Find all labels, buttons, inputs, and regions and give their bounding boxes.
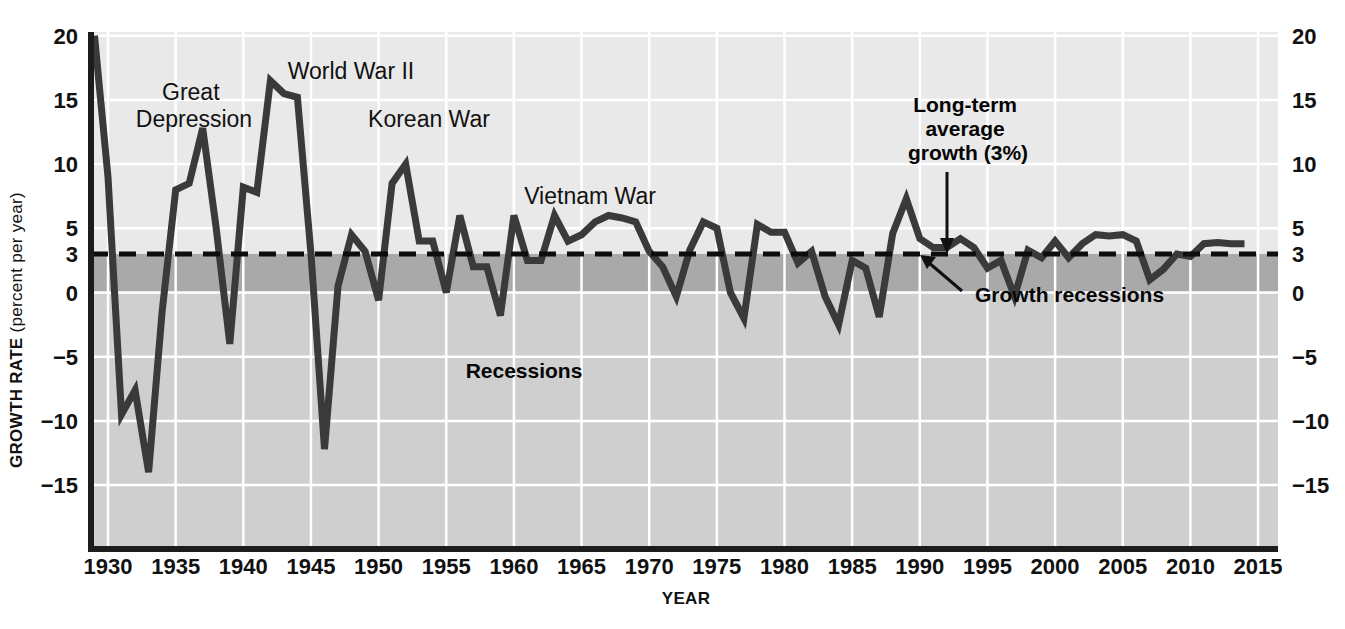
x-tick-label: 2010 — [1166, 554, 1215, 579]
y-tick-label: 10 — [1292, 152, 1316, 177]
x-tick-label: 1945 — [286, 554, 335, 579]
y-tick-label: −5 — [1292, 345, 1317, 370]
y-tick-label: 5 — [1292, 216, 1304, 241]
growth-rate-line-chart: 201510530−5−10−15 201510530−5−10−15 1930… — [0, 0, 1345, 629]
x-tick-label: 1940 — [219, 554, 268, 579]
annotation-growth-recessions: Growth recessions — [975, 283, 1164, 306]
x-tick-label: 1960 — [489, 554, 538, 579]
chart-figure: 201510530−5−10−15 201510530−5−10−15 1930… — [0, 0, 1345, 629]
annotation-long-term-average: Long-term average growth (3%) — [908, 93, 1028, 164]
y-tick-label: −10 — [1292, 409, 1329, 434]
x-tick-label: 1985 — [828, 554, 877, 579]
y-tick-label: 15 — [54, 88, 78, 113]
y-tick-label: 0 — [1292, 281, 1304, 306]
x-tick-label: 1930 — [84, 554, 133, 579]
y-tick-label: −15 — [1292, 473, 1329, 498]
x-tick-label: 1965 — [557, 554, 606, 579]
y-tick-label: 20 — [1292, 24, 1316, 49]
y-tick-label: −15 — [41, 473, 78, 498]
x-tick-label: 2005 — [1098, 554, 1147, 579]
x-tick-label: 1970 — [625, 554, 674, 579]
annotation-world-war-2: World War II — [288, 58, 415, 84]
y-axis-title: GROWTH RATE (percent per year) — [7, 192, 26, 468]
x-tick-label: 1955 — [422, 554, 471, 579]
annotation-korean-war: Korean War — [368, 106, 490, 132]
x-tick-label: 1975 — [692, 554, 741, 579]
y-tick-label: 3 — [66, 242, 78, 267]
x-tick-label: 1980 — [760, 554, 809, 579]
y-tick-label: 5 — [66, 216, 78, 241]
x-axis-title: YEAR — [662, 589, 710, 608]
y-tick-label: 0 — [66, 281, 78, 306]
x-tick-label: 1950 — [354, 554, 403, 579]
x-tick-label: 1995 — [963, 554, 1012, 579]
x-tick-label: 2015 — [1234, 554, 1283, 579]
y-tick-label: −10 — [41, 409, 78, 434]
x-tick-label: 1935 — [151, 554, 200, 579]
y-tick-label: 3 — [1292, 242, 1304, 267]
y-tick-label: 20 — [54, 24, 78, 49]
x-tick-label: 2000 — [1031, 554, 1080, 579]
y-tick-label: 15 — [1292, 88, 1316, 113]
annotation-vietnam-war: Vietnam War — [524, 183, 656, 209]
y-tick-label: −5 — [53, 345, 78, 370]
annotation-recessions: Recessions — [466, 359, 583, 382]
x-tick-label: 1990 — [895, 554, 944, 579]
y-tick-label: 10 — [54, 152, 78, 177]
